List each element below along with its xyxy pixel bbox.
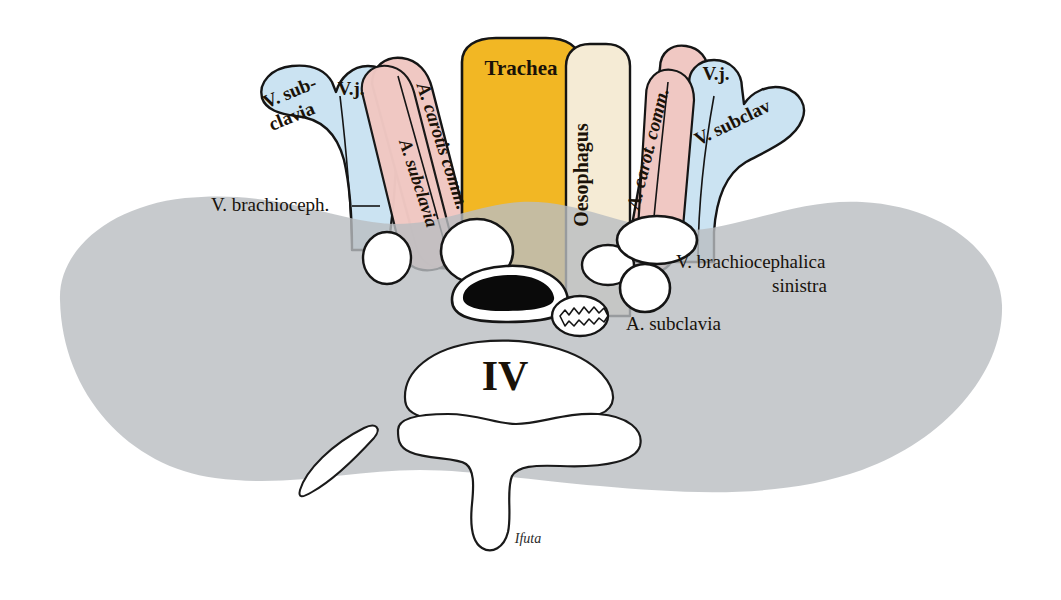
artist-signature: Ifuta (514, 531, 541, 546)
label-vj-right: V.j. (702, 63, 729, 84)
callout-a-subclavia-right: A. subclavia (626, 313, 722, 334)
label-vertebra-iv: IV (482, 353, 529, 399)
label-vj-left: V.j. (337, 78, 364, 99)
callout-v-brachioceph-left: V. brachioceph. (211, 194, 329, 215)
label-oesophagus: Oesophagus (570, 123, 593, 227)
callout-v-brachiocephalica-sinistra-line1: V. brachiocephalica (676, 251, 826, 272)
right-subclavian-artery-lumen (620, 264, 670, 312)
anatomy-illustration: Trachea Oesophagus V. sub- clavia V.j. A… (0, 0, 1061, 600)
left-subclavian-vein-lumen (363, 232, 411, 284)
anatomy-figure: Trachea Oesophagus V. sub- clavia V.j. A… (0, 0, 1061, 600)
callout-v-brachiocephalica-sinistra-line2: sinistra (772, 275, 827, 296)
label-trachea: Trachea (484, 56, 558, 80)
